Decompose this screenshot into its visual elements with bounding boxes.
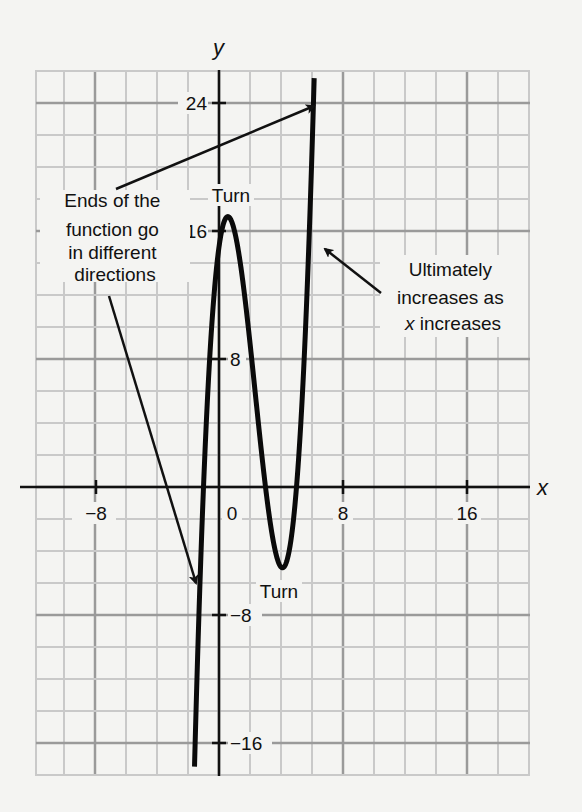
grid <box>36 70 530 776</box>
arrow-to-right-end <box>116 106 314 189</box>
annotation-ends-text: Ends of the function go in different dir… <box>64 190 165 285</box>
y-tick-label: −16 <box>230 733 262 754</box>
annotation-increases-text: Ultimately increases as x increases <box>397 259 509 334</box>
cubic-function-chart: −8 0 8 16 24 16 8 −8 −16 x y Ends of the… <box>0 0 582 812</box>
turn-label-max: Turn <box>212 185 250 206</box>
x-tick-label: 16 <box>456 503 477 524</box>
y-tick-label: 8 <box>230 349 241 370</box>
y-tick-label: −8 <box>230 605 252 626</box>
arrow-to-increasing-branch <box>325 249 381 293</box>
x-tick-label: −8 <box>85 503 107 524</box>
arrow-to-left-end <box>109 296 196 583</box>
y-tick-label: 24 <box>186 93 208 114</box>
x-tick-label: 0 <box>227 503 238 524</box>
x-axis-label: x <box>536 475 549 500</box>
x-tick-label: 8 <box>338 503 349 524</box>
turn-label-min: Turn <box>260 581 298 602</box>
y-axis-label: y <box>211 35 226 60</box>
